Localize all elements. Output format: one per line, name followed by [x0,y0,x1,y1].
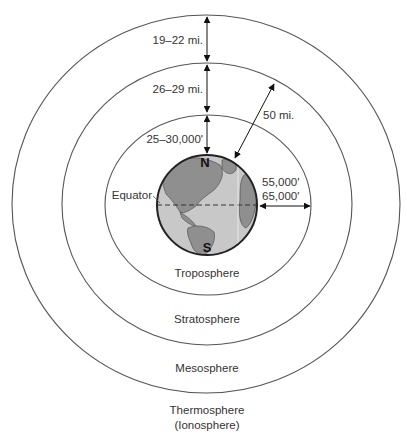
troposphere-label: Troposphere [175,267,240,279]
equatorial-height-label-1: 55,000' [262,176,299,188]
mesosphere-label: Mesosphere [175,362,238,374]
south-pole-label: S [203,240,212,255]
thermosphere-label: Thermosphere [170,404,245,416]
stratosphere-thickness-label: 26–29 mi. [152,83,203,95]
equatorial-height-label-2: 65,000' [262,190,299,202]
total-height-label: 50 mi. [263,109,294,121]
ionosphere-label: (Ionosphere) [174,419,239,431]
north-pole-label: N [200,155,209,170]
atmosphere-layers-diagram: N S Equator 19–22 mi. 26–29 mi. 25–30,00… [0,0,407,439]
equator-label: Equator [112,189,152,201]
stratosphere-label: Stratosphere [174,313,240,325]
troposphere-polar-label: 25–30,000' [146,133,203,145]
total-height-arrow [235,84,274,158]
mesosphere-thickness-label: 19–22 mi. [152,34,203,46]
